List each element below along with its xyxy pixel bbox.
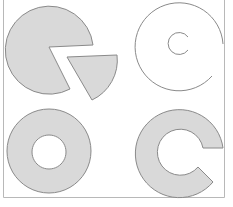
pie-with-wedge bbox=[5, 6, 117, 100]
pie-body bbox=[5, 6, 93, 94]
donut bbox=[7, 109, 91, 193]
c-ring bbox=[135, 110, 223, 198]
donut-ring bbox=[7, 109, 91, 193]
open-ring-outline bbox=[135, 3, 223, 91]
shapes-diagram bbox=[0, 0, 233, 207]
diagram-canvas bbox=[0, 0, 233, 207]
inner-arc bbox=[168, 33, 188, 55]
c-ring-shape bbox=[135, 110, 223, 198]
detached-wedge bbox=[67, 55, 117, 100]
outer-arc bbox=[135, 3, 223, 91]
